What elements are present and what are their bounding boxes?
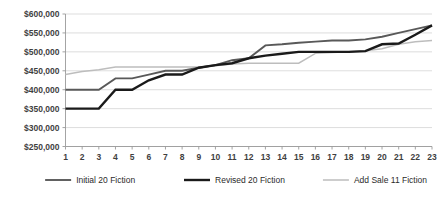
- line-chart: $250,000$300,000$350,000$400,000$450,000…: [0, 0, 442, 201]
- x-tick-label: 23: [427, 152, 437, 162]
- chart-canvas: $250,000$300,000$350,000$400,000$450,000…: [0, 0, 442, 201]
- legend-label: Revised 20 Fiction: [215, 175, 285, 185]
- x-tick-label: 11: [228, 152, 237, 162]
- x-tick-label: 13: [261, 152, 271, 162]
- axes: [63, 14, 433, 150]
- x-tick-label: 7: [163, 152, 168, 162]
- x-tick-label: 19: [361, 152, 371, 162]
- grid-lines: [66, 14, 433, 147]
- chart-legend: Initial 20 FictionRevised 20 FictionAdd …: [45, 175, 427, 185]
- x-axis-tick-labels: 1234567891011121314151617181920212223: [63, 152, 437, 162]
- data-series: [66, 25, 433, 108]
- x-tick-label: 15: [294, 152, 304, 162]
- y-axis-tick-labels: $250,000$300,000$350,000$400,000$450,000…: [24, 9, 60, 152]
- x-tick-label: 21: [394, 152, 404, 162]
- x-tick-label: 4: [113, 152, 118, 162]
- x-tick-label: 10: [211, 152, 221, 162]
- y-tick-label: $300,000: [24, 123, 60, 133]
- x-tick-label: 12: [244, 152, 254, 162]
- legend-item[interactable]: Initial 20 Fiction: [45, 175, 135, 185]
- legend-item[interactable]: Add Sale 11 Fiction: [323, 175, 427, 185]
- y-tick-label: $600,000: [24, 9, 60, 19]
- x-tick-label: 9: [196, 152, 201, 162]
- x-tick-label: 20: [377, 152, 387, 162]
- x-tick-label: 16: [311, 152, 321, 162]
- x-tick-label: 1: [63, 152, 68, 162]
- legend-label: Add Sale 11 Fiction: [354, 175, 427, 185]
- y-tick-label: $550,000: [24, 28, 60, 38]
- x-tick-label: 18: [344, 152, 354, 162]
- x-tick-label: 22: [411, 152, 421, 162]
- x-tick-label: 8: [180, 152, 185, 162]
- y-tick-label: $250,000: [24, 142, 60, 152]
- x-tick-label: 5: [130, 152, 135, 162]
- y-tick-label: $400,000: [24, 85, 60, 95]
- x-tick-label: 6: [146, 152, 151, 162]
- x-tick-label: 17: [327, 152, 337, 162]
- y-tick-label: $350,000: [24, 104, 60, 114]
- legend-item[interactable]: Revised 20 Fiction: [184, 175, 285, 185]
- x-tick-label: 3: [96, 152, 101, 162]
- legend-label: Initial 20 Fiction: [76, 175, 135, 185]
- y-tick-label: $500,000: [24, 47, 60, 57]
- x-tick-label: 2: [80, 152, 85, 162]
- x-tick-label: 14: [277, 152, 287, 162]
- y-tick-label: $450,000: [24, 66, 60, 76]
